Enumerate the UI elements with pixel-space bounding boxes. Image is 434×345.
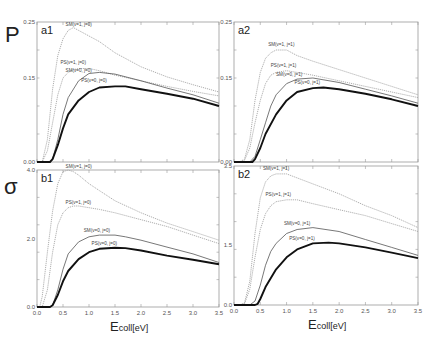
x-tick-label: 1.5 <box>309 308 318 314</box>
x-tick-label: 0.0 <box>33 310 42 316</box>
series-line <box>37 248 219 307</box>
x-tick-label: 3.0 <box>189 310 198 316</box>
series-line <box>37 69 219 163</box>
y-tick-label: 0.0 <box>27 304 36 310</box>
axes-frame <box>234 166 418 305</box>
series-label: PS(v=0, j=1) <box>289 236 315 241</box>
series-line <box>234 88 418 163</box>
x-tick-label: 3.5 <box>414 308 423 314</box>
x-tick-label: 0.5 <box>59 310 68 316</box>
x-tick-label: 3.5 <box>215 310 224 316</box>
series-label: SM(v=0, j=1) <box>276 72 303 77</box>
chart-panel-a1: 0.000.150.25SM(v=1, j=0)PS(v=1, j=0)SM(v… <box>23 19 219 165</box>
series-label: SM(v=0, j=1) <box>284 221 311 226</box>
y-axis-symbol-P: P <box>5 22 20 47</box>
figure-canvas: 0.000.150.25SM(v=1, j=0)PS(v=1, j=0)SM(v… <box>0 0 434 345</box>
series-label: PS(v=0, j=1) <box>294 80 320 85</box>
y-tick-label: 4.0 <box>27 167 36 173</box>
series-line <box>37 170 219 307</box>
y-tick-label: 0.15 <box>220 75 232 81</box>
series-label: SM(v=1, j=0) <box>66 22 93 27</box>
chart-panel-b1: 0.00.51.01.52.02.53.03.50.02.04.0SM(v=1,… <box>27 164 224 334</box>
series-line <box>37 72 219 162</box>
series-label: SM(v=1, j=0) <box>66 164 93 169</box>
chart-panel-b2: 0.00.51.01.52.02.53.03.50.01.53.5SM(v=1,… <box>224 163 423 332</box>
series-label: PS(v=1, j=1) <box>266 192 292 197</box>
y-tick-label: 1.5 <box>224 242 233 248</box>
x-tick-label: 1.0 <box>85 310 94 316</box>
x-axis-label: Ecoll[eV] <box>110 319 148 334</box>
series-line <box>234 174 418 305</box>
panel-label: b1 <box>41 172 53 184</box>
series-label: SM(v=0, j=0) <box>84 228 111 233</box>
panel-label: a1 <box>41 24 53 36</box>
y-tick-label: 0.15 <box>23 75 35 81</box>
series-label: SM(v=1, j=1) <box>263 166 290 171</box>
x-tick-label: 3.0 <box>388 308 397 314</box>
y-tick-label: 0.00 <box>23 159 35 165</box>
panel-label: b2 <box>238 168 250 180</box>
y-tick-label: 0.0 <box>224 302 233 308</box>
y-axis-symbol-sigma: σ <box>4 174 18 199</box>
series-line <box>37 206 219 307</box>
series-label: SM(v=0, j=0) <box>66 68 93 73</box>
chart-panel-a2: 0.000.150.25SM(v=1, j=1)PS(v=1, j=1)SM(v… <box>220 19 418 165</box>
series-label: PS(v=1, j=0) <box>66 200 92 205</box>
x-tick-label: 2.0 <box>137 310 146 316</box>
x-tick-label: 2.5 <box>163 310 172 316</box>
series-line <box>37 235 219 307</box>
series-line <box>234 71 418 162</box>
series-line <box>234 78 418 162</box>
series-label: PS(v=0, j=0) <box>81 78 107 83</box>
x-tick-label: 0.5 <box>256 308 265 314</box>
series-label: PS(v=0, j=0) <box>92 241 118 246</box>
series-line <box>37 86 219 162</box>
series-label: SM(v=1, j=1) <box>268 42 295 47</box>
axes-frame <box>37 170 219 307</box>
x-tick-label: 2.5 <box>361 308 370 314</box>
y-tick-label: 0.25 <box>23 19 35 25</box>
x-axis-label: Ecoll[eV] <box>308 317 346 332</box>
x-tick-label: 2.0 <box>335 308 344 314</box>
panel-label: a2 <box>238 24 250 36</box>
y-tick-label: 3.5 <box>224 163 233 169</box>
y-tick-label: 0.25 <box>220 19 232 25</box>
series-line <box>234 228 418 305</box>
y-tick-label: 2.0 <box>27 236 36 242</box>
x-tick-label: 0.0 <box>230 308 239 314</box>
x-tick-label: 1.5 <box>111 310 120 316</box>
axes-frame <box>37 22 219 162</box>
series-line <box>234 243 418 305</box>
series-label: PS(v=1, j=0) <box>60 60 86 65</box>
series-label: PS(v=1, j=1) <box>271 63 297 68</box>
x-tick-label: 1.0 <box>282 308 291 314</box>
